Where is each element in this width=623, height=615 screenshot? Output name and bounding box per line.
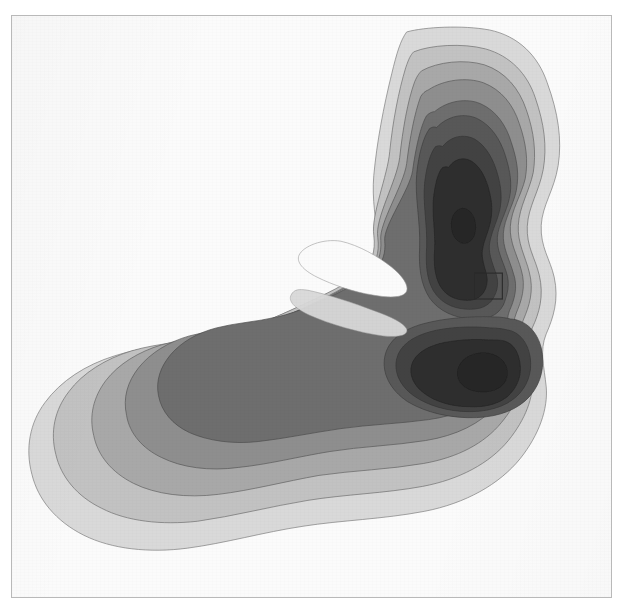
contour-plot — [12, 16, 611, 597]
plot-frame — [11, 15, 612, 598]
contour-nucleus-upper — [451, 208, 475, 243]
contour-nucleus-lower — [457, 353, 507, 392]
contour-figure — [0, 0, 623, 615]
